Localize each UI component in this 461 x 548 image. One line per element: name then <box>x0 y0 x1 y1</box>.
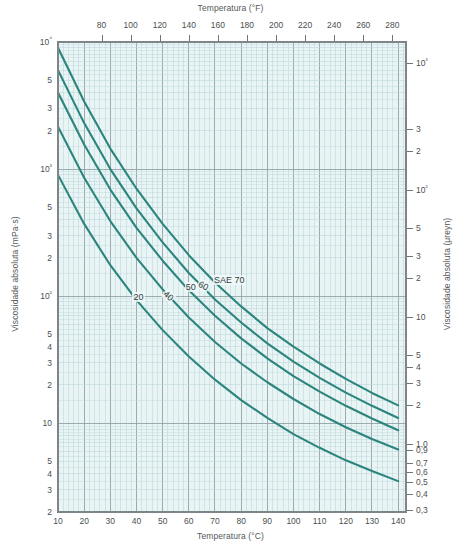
xtick-20: 20 <box>79 516 88 526</box>
tick-mark <box>334 35 335 41</box>
tick-mark <box>407 510 413 511</box>
tick-mark <box>407 383 413 384</box>
y2tick-30: 3 <box>416 251 421 261</box>
ytick-1000: 10³ <box>26 164 52 174</box>
x2tick-180: 180 <box>240 20 254 30</box>
y2tick-200: 2 <box>416 146 421 156</box>
x2tick-160: 160 <box>211 20 225 30</box>
tick-mark <box>189 35 190 41</box>
x2tick-100: 100 <box>124 20 138 30</box>
xtick-60: 60 <box>184 516 193 526</box>
tick-mark <box>276 35 277 41</box>
curve-label-sae-50: 50 <box>185 282 197 292</box>
tick-mark <box>407 482 413 483</box>
ytick-5: 5 <box>26 456 52 466</box>
tick-mark <box>363 35 364 41</box>
ytick-10: 10 <box>26 418 52 428</box>
xtick-10: 10 <box>53 516 62 526</box>
tick-mark <box>407 444 413 445</box>
ytick-30: 3 <box>26 358 52 368</box>
tick-mark <box>407 367 413 368</box>
xtick-70: 70 <box>210 516 219 526</box>
x2tick-260: 260 <box>356 20 370 30</box>
tick-mark <box>407 228 413 229</box>
x2tick-200: 200 <box>269 20 283 30</box>
x2tick-120: 120 <box>153 20 167 30</box>
ytick-200: 2 <box>26 253 52 263</box>
x2tick-240: 240 <box>327 20 341 30</box>
y2tick-2: 2 <box>416 400 421 410</box>
y2tick-0,6: 0,6 <box>416 467 428 477</box>
tick-mark <box>392 35 393 41</box>
y2tick-3: 3 <box>416 378 421 388</box>
tick-mark <box>407 278 413 279</box>
ytick-2: 2 <box>26 507 52 517</box>
tick-mark <box>407 450 413 451</box>
y2tick-0,4: 0,4 <box>416 489 428 499</box>
y2tick-50: 5 <box>416 223 421 233</box>
tick-mark <box>131 35 132 41</box>
tick-mark <box>407 151 413 152</box>
y2tick-0,3: 0,3 <box>416 505 428 515</box>
tick-mark <box>407 355 413 356</box>
ytick-50: 5 <box>26 329 52 339</box>
tick-mark <box>407 190 413 191</box>
x2tick-220: 220 <box>298 20 312 30</box>
y2tick-10: 10 <box>416 312 425 322</box>
ytick-2000: 2 <box>26 126 52 136</box>
xtick-120: 120 <box>339 516 353 526</box>
ytick-20: 2 <box>26 380 52 390</box>
tick-mark <box>407 63 413 64</box>
y2tick-20: 2 <box>416 273 421 283</box>
x2tick-140: 140 <box>182 20 196 30</box>
y2tick-300: 3 <box>416 124 421 134</box>
y2tick-0,5: 0,5 <box>416 477 428 487</box>
tick-mark <box>160 35 161 41</box>
xtick-90: 90 <box>263 516 272 526</box>
ytick-100: 10² <box>26 291 52 301</box>
tick-mark <box>407 129 413 130</box>
y2tick-5: 5 <box>416 350 421 360</box>
xtick-140: 140 <box>391 516 405 526</box>
y2tick-0,9: 0,9 <box>416 445 428 455</box>
x2tick-80: 80 <box>97 20 106 30</box>
xtick-110: 110 <box>313 516 327 526</box>
ytick-300: 3 <box>26 231 52 241</box>
tick-mark <box>407 405 413 406</box>
tick-mark <box>305 35 306 41</box>
xtick-40: 40 <box>132 516 141 526</box>
viscosity-temperature-chart: Temperatura (°F) Temperatura (°C) Viscos… <box>0 0 461 548</box>
x2tick-280: 280 <box>385 20 399 30</box>
tick-mark <box>407 463 413 464</box>
tick-mark <box>407 494 413 495</box>
curve-label-sae-70: SAE 70 <box>213 275 246 285</box>
ytick-4: 4 <box>26 469 52 479</box>
xtick-30: 30 <box>106 516 115 526</box>
tick-mark <box>407 472 413 473</box>
tick-mark <box>247 35 248 41</box>
ytick-3: 3 <box>26 485 52 495</box>
ytick-5000: 5 <box>26 75 52 85</box>
tick-mark <box>102 35 103 41</box>
xtick-80: 80 <box>236 516 245 526</box>
xtick-50: 50 <box>158 516 167 526</box>
tick-mark <box>407 317 413 318</box>
tick-mark <box>407 256 413 257</box>
y2tick-4: 4 <box>416 362 421 372</box>
ytick-40: 4 <box>26 342 52 352</box>
ytick-500: 5 <box>26 202 52 212</box>
tick-mark <box>218 35 219 41</box>
y2tick-1000: 10³ <box>416 58 428 68</box>
xtick-100: 100 <box>286 516 300 526</box>
curve-label-sae-20: 20 <box>132 292 144 302</box>
y2tick-100: 10² <box>416 185 428 195</box>
ytick-3000: 3 <box>26 103 52 113</box>
xtick-130: 130 <box>365 516 379 526</box>
ytick-10000: 10⁴ <box>26 37 52 47</box>
